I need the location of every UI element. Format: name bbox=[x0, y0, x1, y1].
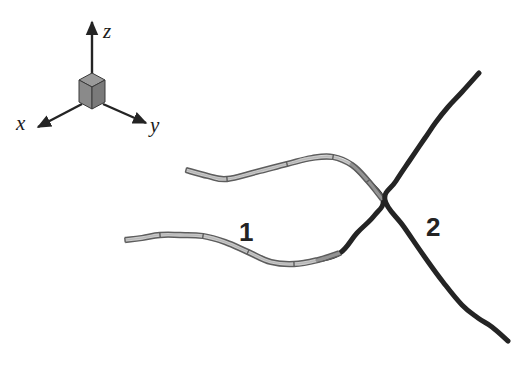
axis-y-line bbox=[103, 104, 146, 123]
figure-canvas: z x y 1 2 bbox=[0, 0, 530, 368]
axis-z-label: z bbox=[102, 19, 111, 43]
curve-one bbox=[125, 154, 386, 267]
axis-x-label: x bbox=[15, 111, 26, 135]
coordinate-frame: z x y bbox=[15, 19, 160, 137]
curve-one-label: 1 bbox=[239, 217, 253, 247]
curve-two bbox=[385, 73, 508, 341]
origin-cube bbox=[79, 73, 105, 109]
figure-svg: z x y 1 2 bbox=[0, 0, 530, 368]
axis-y-label: y bbox=[148, 113, 160, 137]
axis-x-line bbox=[38, 104, 82, 127]
curve-two-label: 2 bbox=[426, 212, 440, 242]
